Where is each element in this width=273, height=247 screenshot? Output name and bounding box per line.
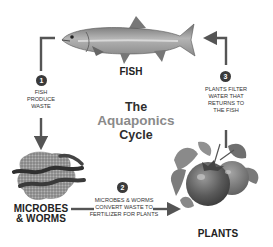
step-1-badge: 1 — [36, 75, 47, 86]
step-2-badge: 2 — [117, 182, 128, 193]
fish-label: FISH — [106, 66, 156, 77]
plants-node — [168, 140, 263, 218]
microbes-label: MICROBES & WORMS — [8, 204, 74, 224]
fish-icon — [58, 10, 198, 65]
step-3-badge: 3 — [220, 71, 231, 82]
fish-node — [58, 10, 198, 65]
worms-icon — [12, 150, 87, 202]
step-2-text: MICROBES & WORMS CONVERT WASTE TO FERTIL… — [88, 197, 160, 218]
step-3-text: PLANTS FILTER WATER THAT RETURNS TO THE … — [196, 86, 256, 114]
step-1-text: FISH PRODUCE WASTE — [16, 89, 66, 110]
plants-icon — [168, 140, 263, 218]
diagram-title: The Aquaponics Cycle — [88, 100, 184, 142]
plants-label: PLANTS — [190, 228, 246, 239]
microbes-node — [12, 150, 87, 202]
